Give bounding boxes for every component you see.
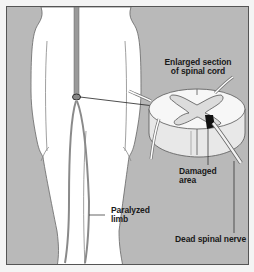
enlarged-section-label: Enlarged section of spinal cord: [153, 58, 243, 76]
paralyzed-label-line2: limb: [111, 215, 150, 224]
spinal-injury-illustration: [7, 7, 249, 265]
injury-site-marker: [73, 94, 81, 100]
damaged-label-line2: area: [179, 176, 217, 185]
spinal-cord: [74, 7, 79, 99]
enlarged-spinal-cord-section: [129, 77, 245, 163]
enlarged-label-line2: of spinal cord: [153, 67, 243, 76]
paralyzed-limb-label: Paralyzed limb: [111, 206, 150, 224]
diagram-panel: Enlarged section of spinal cord Damaged …: [6, 6, 249, 265]
dead-spinal-nerve-label: Dead spinal nerve: [175, 235, 246, 244]
damaged-area-label: Damaged area: [179, 167, 217, 185]
